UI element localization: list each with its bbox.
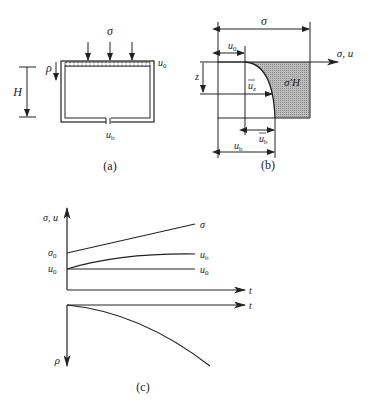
depth-label: z [194, 71, 199, 82]
top-pressure-label: u0 [158, 57, 167, 70]
porous-stone [65, 62, 150, 66]
load-label: σ [107, 24, 114, 38]
height-label: H [12, 85, 23, 99]
bottom-pressure-label-b: ub [234, 140, 243, 153]
sigma0-label: σ0 [48, 247, 57, 260]
settlement-label: ρ [45, 61, 52, 75]
effective-stress-label: σ′H [284, 76, 301, 88]
panel-a: σ u0 ub ρ H (a) [12, 24, 167, 173]
bottom-pressure-label: ub [106, 129, 115, 142]
panel-b: σ u0 σ′H σ, u z uz [194, 14, 354, 172]
top-pressure-label-b: u0 [228, 40, 237, 53]
sigma-curve [67, 224, 195, 253]
caption-a: (a) [103, 159, 116, 173]
bottom-drain [106, 117, 111, 124]
y-axis-label: σ, u [43, 212, 58, 223]
sigma-curve-label: σ [200, 219, 206, 230]
settlement-axis-label: ρ [54, 354, 60, 366]
x-axis-label-lower: t [249, 300, 252, 311]
excess-z-label: uz [248, 80, 256, 93]
u0-curve-label: u0 [200, 264, 209, 277]
ub-curve [67, 254, 195, 269]
hydrostatic-box [218, 62, 245, 118]
total-stress-label: σ [261, 14, 268, 28]
settlement-curve [67, 305, 210, 366]
consolidation-diagram: σ u0 ub ρ H (a) [0, 0, 373, 407]
svg-text:uz: uz [248, 80, 256, 93]
ub-curve-label: ub [200, 249, 209, 262]
container-inner-wall [65, 66, 150, 118]
excess-bottom-label: ub [259, 133, 268, 146]
stress-axis-label: σ, u [337, 47, 354, 59]
load-arrows [88, 42, 132, 60]
x-axis-label: t [249, 285, 252, 296]
container-outer-wall [61, 61, 154, 122]
svg-text:ub: ub [259, 133, 268, 146]
caption-b: (b) [261, 158, 275, 172]
panel-c: σ, u t σ ub u0 σ0 u0 t ρ (c) [43, 208, 252, 394]
caption-c: (c) [136, 380, 149, 394]
u0-left-label: u0 [48, 263, 57, 276]
